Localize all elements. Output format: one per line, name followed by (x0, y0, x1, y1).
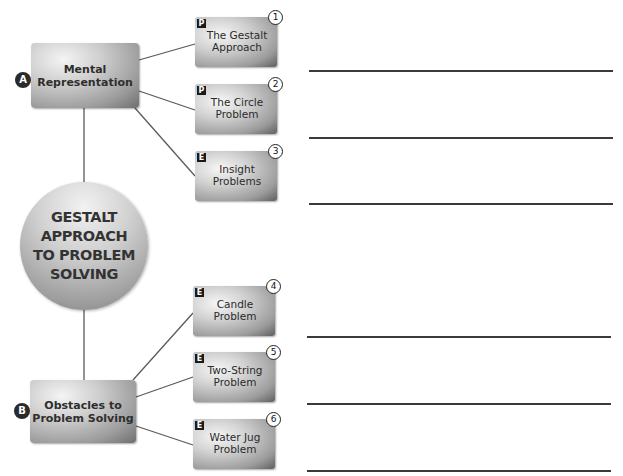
number-badge: 1 (268, 10, 283, 25)
item-water-jug-problem: E 6 Water Jug Problem (193, 419, 275, 469)
type-tag: E (197, 153, 206, 162)
central-topic-node: GESTALT APPROACH TO PROBLEM SOLVING (20, 182, 148, 310)
item-gestalt-approach: P 1 The Gestalt Approach (195, 17, 277, 67)
type-tag: P (197, 19, 206, 28)
central-label-line: GESTALT (33, 208, 135, 227)
item-label-line: Insight (201, 163, 273, 175)
type-tag: P (197, 86, 206, 95)
item-label-line: Problems (201, 175, 273, 187)
concept-map: A Mental Representation GESTALT APPROACH… (0, 0, 623, 476)
branch-b-letter: B (18, 405, 26, 416)
number-badge: 3 (268, 144, 283, 159)
item-insight-problems: E 3 Insight Problems (195, 151, 277, 201)
item-label-line: Problem (199, 310, 271, 322)
item-label-line: Candle (199, 298, 271, 310)
item-label-line: Water Jug (199, 431, 271, 443)
item-label-line: Problem (199, 443, 271, 455)
item-label-line: Two-String (199, 364, 271, 376)
type-tag: E (195, 354, 204, 363)
item-two-string-problem: E 5 Two-String Problem (193, 352, 275, 402)
type-tag: E (195, 421, 204, 430)
item-circle-problem: P 2 The Circle Problem (195, 84, 277, 134)
item-label-line: Approach (201, 41, 273, 53)
type-tag: E (195, 288, 204, 297)
answer-line-3[interactable] (309, 203, 613, 205)
item-label-line: The Gestalt (201, 29, 273, 41)
answer-line-2[interactable] (309, 137, 613, 139)
node-label-line: Representation (37, 76, 133, 89)
number-badge: 4 (266, 279, 281, 294)
mental-representation-node: Mental Representation (31, 43, 139, 108)
number-badge: 6 (266, 412, 281, 427)
answer-line-5[interactable] (307, 403, 611, 405)
number-badge: 2 (268, 77, 283, 92)
answer-line-6[interactable] (307, 470, 611, 472)
node-label-line: Problem Solving (32, 412, 133, 425)
central-label-line: TO PROBLEM (33, 246, 135, 265)
item-candle-problem: E 4 Candle Problem (193, 286, 275, 336)
node-label-line: Mental (37, 63, 133, 76)
obstacles-node: Obstacles to Problem Solving (30, 380, 136, 443)
answer-line-4[interactable] (307, 336, 611, 338)
branch-b-badge: B (14, 403, 30, 419)
item-label-line: The Circle (201, 96, 273, 108)
item-label-line: Problem (201, 108, 273, 120)
branch-a-badge: A (15, 72, 31, 88)
central-label-line: APPROACH (33, 227, 135, 246)
number-badge: 5 (266, 345, 281, 360)
branch-a-letter: A (19, 74, 27, 85)
central-label-line: SOLVING (33, 265, 135, 284)
answer-line-1[interactable] (309, 70, 613, 72)
node-label-line: Obstacles to (32, 399, 133, 412)
item-label-line: Problem (199, 376, 271, 388)
